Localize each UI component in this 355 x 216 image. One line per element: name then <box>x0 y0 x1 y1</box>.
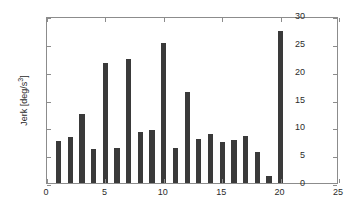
x-tick-label: 15 <box>209 188 233 197</box>
x-tick-label: 20 <box>268 188 292 197</box>
bar <box>220 142 225 183</box>
y-tick-label: 10 <box>295 123 305 132</box>
x-tick-label: 10 <box>151 188 175 197</box>
y-tick-mark <box>47 185 51 186</box>
bar <box>79 114 84 183</box>
y-axis-title-suffix: ] <box>19 75 29 78</box>
y-tick-label: 5 <box>300 151 305 160</box>
y-axis-title: Jerk [deg/s3] <box>14 17 28 184</box>
bar <box>243 136 248 183</box>
y-tick-mark <box>47 157 51 158</box>
y-tick-mark <box>47 74 51 75</box>
x-tick-label: 0 <box>34 188 58 197</box>
bar <box>91 149 96 183</box>
bar <box>278 31 283 183</box>
bar <box>255 152 260 183</box>
bar <box>126 59 131 183</box>
bar <box>114 148 119 183</box>
x-tick-mark <box>222 179 223 183</box>
figure-canvas: 051015202530 0510152025 Jerk [deg/s3] <box>0 0 355 216</box>
y-tick-mark-right <box>333 46 337 47</box>
y-tick-mark <box>47 46 51 47</box>
y-tick-label: 0 <box>300 179 305 188</box>
bar <box>266 176 271 183</box>
x-tick-mark <box>47 179 48 183</box>
x-tick-mark-top <box>105 18 106 22</box>
y-tick-label: 30 <box>295 12 305 21</box>
x-tick-mark <box>164 179 165 183</box>
x-tick-mark-top <box>339 18 340 22</box>
bar <box>138 132 143 183</box>
y-tick-label: 15 <box>295 96 305 105</box>
y-axis-title-text: Jerk [deg/s <box>19 82 29 126</box>
bar <box>231 140 236 183</box>
bar <box>56 141 61 183</box>
x-tick-mark <box>339 179 340 183</box>
bar <box>161 43 166 183</box>
y-tick-label: 25 <box>295 40 305 49</box>
plot-area <box>47 18 337 183</box>
x-tick-mark <box>105 179 106 183</box>
y-tick-mark-right <box>333 102 337 103</box>
y-axis-title-exponent: 3 <box>17 78 24 82</box>
y-tick-mark <box>47 129 51 130</box>
x-tick-mark-top <box>47 18 48 22</box>
x-tick-label: 25 <box>326 188 350 197</box>
x-tick-mark-top <box>164 18 165 22</box>
bar <box>68 137 73 183</box>
x-tick-mark-top <box>222 18 223 22</box>
y-tick-mark-right <box>333 18 337 19</box>
y-tick-mark-right <box>333 129 337 130</box>
y-tick-mark <box>47 102 51 103</box>
bar <box>103 63 108 183</box>
x-tick-mark-top <box>281 18 282 22</box>
x-tick-mark <box>281 179 282 183</box>
y-tick-mark-right <box>333 157 337 158</box>
x-tick-label: 5 <box>92 188 116 197</box>
y-tick-mark-right <box>333 74 337 75</box>
bar <box>208 134 213 183</box>
bar <box>149 130 154 183</box>
bar <box>173 148 178 183</box>
y-tick-mark-right <box>333 185 337 186</box>
bar <box>196 139 201 183</box>
y-tick-label: 20 <box>295 68 305 77</box>
bar <box>185 92 190 183</box>
